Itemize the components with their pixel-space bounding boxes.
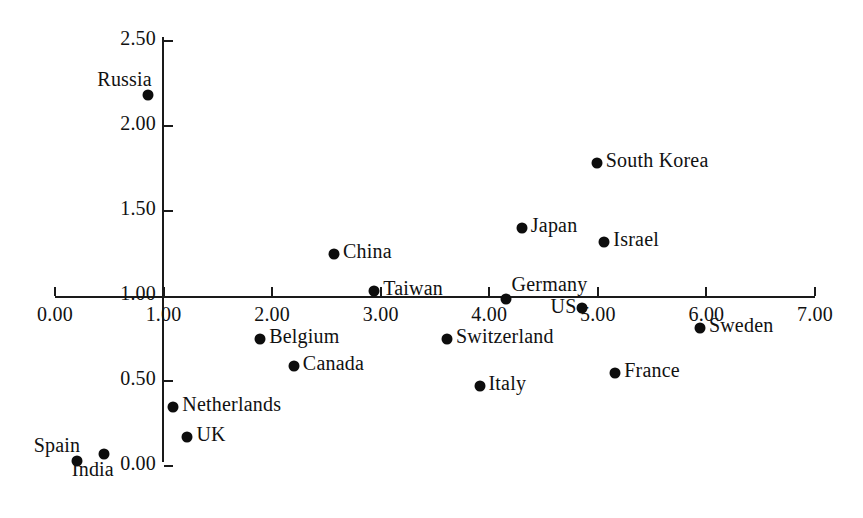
x-tick-mark: [271, 287, 273, 296]
data-point-label: Germany: [512, 273, 588, 296]
data-point-marker[interactable]: [168, 401, 179, 412]
data-point-label: Japan: [531, 214, 578, 237]
data-point-label: France: [624, 359, 680, 382]
data-point-label: Israel: [613, 228, 659, 251]
y-tick-mark: [164, 210, 173, 212]
data-point-marker[interactable]: [441, 333, 452, 344]
data-point-marker[interactable]: [474, 381, 485, 392]
y-tick-mark: [164, 465, 173, 467]
x-tick-mark: [163, 287, 165, 296]
data-point-marker[interactable]: [329, 248, 340, 259]
y-axis-line: [162, 37, 164, 462]
y-tick-label: 2.00: [84, 112, 156, 135]
y-tick-label: 1.50: [84, 197, 156, 220]
data-point-label: Spain: [34, 434, 81, 457]
scatter-plot-figure: 0.001.002.003.004.005.006.007.00 0.000.5…: [0, 0, 863, 518]
y-tick-mark: [164, 40, 173, 42]
data-point-marker[interactable]: [182, 432, 193, 443]
data-point-marker[interactable]: [369, 285, 380, 296]
data-point-label: South Korea: [606, 149, 709, 172]
data-point-marker[interactable]: [500, 294, 511, 305]
y-tick-label: 2.50: [84, 27, 156, 50]
x-tick-label: 4.00: [454, 303, 524, 326]
y-tick-label: 1.00: [84, 282, 156, 305]
data-point-label: Taiwan: [383, 277, 443, 300]
x-tick-label: 0.00: [20, 303, 90, 326]
data-point-label: Sweden: [709, 314, 774, 337]
y-tick-mark: [164, 125, 173, 127]
x-tick-mark: [488, 287, 490, 296]
data-point-marker[interactable]: [610, 367, 621, 378]
data-point-label: Belgium: [269, 325, 339, 348]
data-point-label: Russia: [97, 68, 152, 91]
data-point-marker[interactable]: [591, 158, 602, 169]
data-point-marker[interactable]: [71, 455, 82, 466]
y-tick-mark: [164, 380, 173, 382]
data-point-label: Switzerland: [456, 325, 554, 348]
data-point-label: US: [551, 295, 577, 318]
data-point-marker[interactable]: [576, 302, 587, 313]
data-point-label: Canada: [303, 352, 364, 375]
data-point-marker[interactable]: [516, 223, 527, 234]
data-point-marker[interactable]: [288, 360, 299, 371]
x-tick-mark: [705, 287, 707, 296]
y-tick-label: 0.50: [84, 367, 156, 390]
data-point-marker[interactable]: [694, 323, 705, 334]
x-tick-label: 3.00: [346, 303, 416, 326]
x-tick-label: 1.00: [129, 303, 199, 326]
x-tick-mark: [597, 287, 599, 296]
x-tick-label: 7.00: [780, 303, 850, 326]
data-point-label: China: [343, 240, 392, 263]
data-point-label: Italy: [489, 372, 527, 395]
data-point-marker[interactable]: [255, 333, 266, 344]
data-point-label: UK: [196, 423, 225, 446]
x-tick-mark: [54, 287, 56, 296]
data-point-label: Netherlands: [182, 393, 281, 416]
x-tick-mark: [380, 287, 382, 296]
x-tick-label: 2.00: [237, 303, 307, 326]
data-point-marker[interactable]: [599, 236, 610, 247]
x-tick-mark: [814, 287, 816, 296]
data-point-marker[interactable]: [143, 90, 154, 101]
